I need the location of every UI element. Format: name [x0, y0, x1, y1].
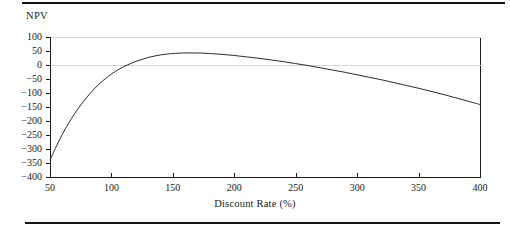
y-tick-label: −150 [21, 102, 42, 112]
npv-curve-path [50, 53, 480, 160]
y-tick-label: 0 [37, 60, 42, 70]
y-tick-label: −200 [21, 116, 42, 126]
y-tick-label: −300 [21, 144, 42, 154]
y-tick-label: −250 [21, 130, 42, 140]
x-tick-label: 300 [350, 183, 365, 193]
npv-chart-figure: NPV 100500−50−100−150−200−250−300−350−40… [0, 0, 510, 235]
y-tick-label: −100 [21, 88, 42, 98]
y-tick-label: 50 [32, 46, 42, 56]
x-tick-label: 50 [45, 183, 55, 193]
y-axis-title: NPV [26, 10, 48, 21]
x-tick-label: 400 [473, 183, 488, 193]
bottom-horizontal-rule [25, 222, 500, 224]
y-tick-label: −400 [21, 172, 42, 182]
y-tick-label: 100 [27, 32, 42, 42]
x-tick-label: 100 [104, 183, 119, 193]
x-tick-label: 250 [288, 183, 303, 193]
y-tick-label: −50 [26, 74, 42, 84]
top-horizontal-rule [22, 2, 505, 4]
x-tick-label: 350 [411, 183, 426, 193]
x-tick-label: 150 [165, 183, 180, 193]
npv-curve-layer [50, 37, 481, 178]
y-tick-label: −350 [21, 158, 42, 168]
x-tick-label: 200 [227, 183, 242, 193]
plot-area: 100500−50−100−150−200−250−300−350−400 50… [50, 37, 481, 177]
x-axis-title: Discount Rate (%) [0, 198, 510, 209]
